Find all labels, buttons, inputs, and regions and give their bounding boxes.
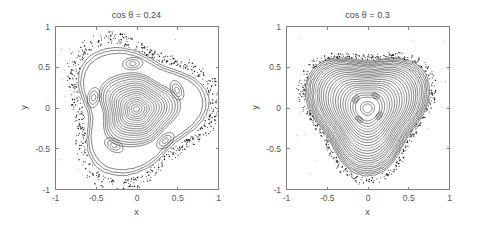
- stray-point: [203, 101, 204, 102]
- chaotic-point: [376, 58, 377, 59]
- chaotic-point: [203, 84, 204, 85]
- chaotic-point: [161, 162, 162, 163]
- chaotic-point: [365, 59, 366, 60]
- stray-point: [304, 134, 305, 135]
- figure-background: [0, 0, 486, 239]
- stray-point: [128, 124, 129, 125]
- chaotic-point: [325, 144, 327, 146]
- chaotic-point: [136, 180, 137, 181]
- chaotic-point: [112, 183, 113, 184]
- stray-point: [369, 82, 370, 83]
- chaotic-point: [316, 66, 317, 67]
- chaotic-point: [158, 164, 159, 165]
- chaotic-point: [184, 64, 186, 66]
- chaotic-point: [411, 55, 413, 57]
- chaotic-point: [192, 138, 194, 140]
- stray-point: [69, 48, 70, 49]
- chaotic-point: [79, 133, 80, 134]
- chaotic-point: [67, 76, 68, 77]
- chaotic-point: [77, 72, 79, 74]
- chaotic-point: [168, 154, 169, 155]
- chaotic-point: [142, 51, 143, 52]
- chaotic-point: [67, 63, 68, 64]
- chaotic-point: [84, 150, 85, 151]
- chaotic-point: [408, 146, 409, 147]
- chaotic-point: [372, 57, 373, 58]
- chaotic-point: [96, 173, 97, 174]
- chaotic-point: [203, 134, 204, 135]
- chaotic-point: [76, 84, 77, 85]
- chaotic-point: [172, 58, 174, 60]
- chaotic-point: [341, 166, 343, 168]
- stray-point: [141, 71, 142, 72]
- chaotic-point: [377, 53, 378, 54]
- chaotic-point: [353, 54, 354, 55]
- chaotic-point: [343, 171, 344, 172]
- chaotic-point: [82, 131, 83, 132]
- chaotic-point: [326, 139, 327, 140]
- chaotic-point: [186, 142, 187, 143]
- chaotic-point: [162, 163, 163, 164]
- chaotic-point: [150, 49, 151, 50]
- chaotic-point: [167, 60, 169, 62]
- chaotic-point: [81, 128, 82, 129]
- chaotic-point: [420, 122, 422, 124]
- chaotic-point: [336, 157, 338, 159]
- chaotic-point: [100, 185, 102, 187]
- chaotic-point: [331, 56, 332, 57]
- chaotic-point: [150, 57, 151, 58]
- chaotic-point: [298, 97, 299, 98]
- y-tick-label: -0.5: [266, 144, 281, 154]
- chaotic-point: [216, 94, 217, 95]
- chaotic-point: [369, 181, 370, 182]
- chaotic-point: [386, 56, 387, 57]
- chaotic-point: [124, 45, 126, 47]
- chaotic-point: [380, 58, 381, 59]
- chaotic-point: [80, 47, 81, 48]
- chaotic-point: [204, 120, 206, 122]
- chaotic-point: [213, 128, 214, 129]
- chaotic-point: [354, 178, 356, 180]
- chaotic-point: [193, 67, 194, 68]
- chaotic-point: [323, 133, 324, 134]
- chaotic-point: [136, 177, 138, 179]
- chaotic-point: [367, 56, 368, 57]
- stray-point: [345, 158, 346, 159]
- stray-point: [299, 111, 300, 112]
- chaotic-point: [202, 79, 203, 80]
- chaotic-point: [430, 93, 431, 94]
- chaotic-point: [409, 140, 410, 141]
- chaotic-point: [149, 53, 150, 54]
- chaotic-point: [337, 56, 338, 57]
- chaotic-point: [326, 143, 327, 144]
- chaotic-point: [351, 174, 352, 175]
- chaotic-point: [89, 171, 90, 172]
- chaotic-point: [346, 53, 347, 54]
- chaotic-point: [411, 137, 412, 138]
- chaotic-point: [310, 116, 311, 117]
- chaotic-point: [418, 57, 419, 58]
- chaotic-point: [81, 152, 82, 153]
- chaotic-point: [186, 65, 188, 67]
- chaotic-point: [164, 156, 166, 158]
- stray-point: [159, 148, 160, 149]
- chaotic-point: [199, 74, 200, 75]
- chaotic-point: [304, 99, 305, 100]
- chaotic-point: [362, 177, 363, 178]
- stray-point: [128, 176, 129, 177]
- chaotic-point: [432, 78, 433, 79]
- chaotic-point: [429, 111, 430, 112]
- chaotic-point: [306, 77, 308, 79]
- chaotic-point: [339, 163, 340, 164]
- chaotic-point: [308, 64, 309, 65]
- chaotic-point: [359, 55, 361, 57]
- chaotic-point: [78, 112, 79, 113]
- chaotic-point: [424, 117, 425, 118]
- chaotic-point: [180, 153, 181, 154]
- chaotic-point: [304, 84, 306, 86]
- chaotic-point: [300, 93, 301, 94]
- chaotic-point: [382, 173, 383, 174]
- chaotic-point: [83, 118, 84, 119]
- chaotic-point: [93, 36, 94, 37]
- chaotic-point: [82, 57, 83, 58]
